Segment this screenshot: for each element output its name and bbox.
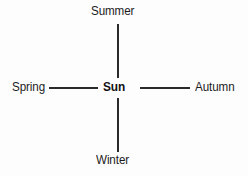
seasons-diagram: Summer Spring Sun Autumn Winter <box>0 0 248 176</box>
node-label-spring: Spring <box>12 80 45 94</box>
connector-sun-winter <box>117 98 119 152</box>
connector-sun-summer <box>117 24 119 78</box>
node-label-autumn: Autumn <box>195 80 235 94</box>
connector-sun-spring <box>49 87 98 89</box>
center-label-sun: Sun <box>103 80 125 94</box>
connector-sun-autumn <box>140 87 190 89</box>
node-label-summer: Summer <box>91 4 134 18</box>
node-label-winter: Winter <box>96 153 129 167</box>
